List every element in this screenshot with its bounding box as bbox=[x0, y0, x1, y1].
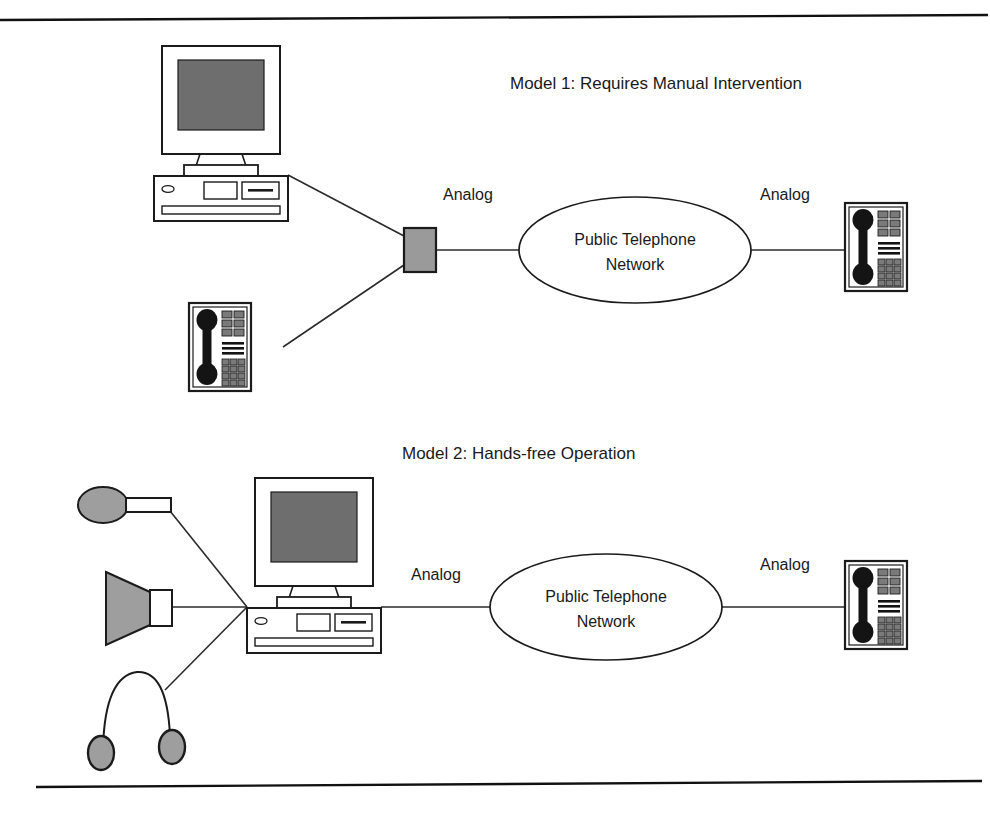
model-2-analog-label-right: Analog bbox=[760, 556, 810, 573]
model-1-network-label-line-1: Public Telephone bbox=[574, 231, 696, 248]
model-1-analog-label-right: Analog bbox=[760, 186, 810, 203]
model-1-network-label-line-2: Network bbox=[606, 256, 666, 273]
model-2-group: Model 2: Hands-free Operation bbox=[78, 444, 907, 770]
headphones-earpad-right-icon bbox=[159, 730, 185, 764]
model-1-group: Model 1: Requires Manual Intervention An… bbox=[154, 46, 907, 391]
speaker-body-icon bbox=[150, 590, 172, 626]
model-2-network-label-line-1: Public Telephone bbox=[545, 588, 667, 605]
model-1-network-cloud bbox=[519, 197, 751, 303]
model-2-headphones bbox=[88, 672, 185, 770]
model-1-title: Model 1: Requires Manual Intervention bbox=[510, 74, 802, 93]
model-2-remote-telephone bbox=[845, 561, 907, 649]
microphone-boom-icon bbox=[126, 498, 171, 512]
model-2-title: Model 2: Hands-free Operation bbox=[402, 444, 635, 463]
wire-headphones-to-computer bbox=[165, 607, 247, 690]
wire-computer-to-modem bbox=[288, 175, 404, 236]
bottom-horizontal-rule bbox=[36, 781, 982, 787]
wire-microphone-to-computer bbox=[170, 511, 247, 607]
model-2-computer bbox=[247, 478, 381, 653]
model-1-modem bbox=[404, 228, 436, 272]
model-2-speaker bbox=[106, 572, 172, 645]
model-2-network-cloud bbox=[490, 554, 722, 660]
model-2-microphone bbox=[78, 487, 171, 523]
model-1-analog-label-left: Analog bbox=[443, 186, 493, 203]
telephony-models-diagram: Model 1: Requires Manual Intervention An… bbox=[0, 0, 990, 813]
model-1-remote-telephone bbox=[845, 203, 907, 291]
top-horizontal-rule bbox=[0, 15, 988, 20]
headphones-earpad-left-icon bbox=[88, 736, 114, 770]
model-1-computer bbox=[154, 46, 288, 221]
headphones-band-icon bbox=[103, 672, 170, 748]
microphone-head-icon bbox=[78, 487, 128, 523]
speaker-cone-icon bbox=[106, 572, 150, 645]
model-2-network-label-line-2: Network bbox=[577, 613, 637, 630]
diagram-page: Model 1: Requires Manual Intervention An… bbox=[0, 0, 990, 813]
wire-local-phone-to-modem bbox=[283, 265, 404, 347]
model-1-local-telephone bbox=[189, 303, 251, 391]
model-2-analog-label-left: Analog bbox=[411, 566, 461, 583]
